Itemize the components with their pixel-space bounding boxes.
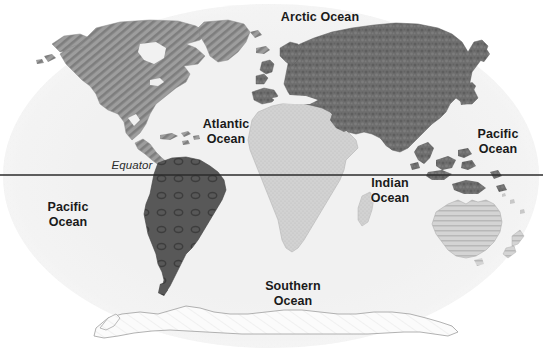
label-equator: Equator — [97, 158, 167, 173]
label-arctic-ocean: Arctic Ocean — [268, 10, 372, 25]
label-indian-ocean: Indian Ocean — [358, 176, 422, 205]
label-pacific-ocean-west: Pacific Ocean — [36, 200, 100, 229]
label-atlantic-ocean: Atlantic Ocean — [190, 117, 262, 146]
label-southern-ocean: Southern Ocean — [252, 279, 334, 308]
label-pacific-ocean-east: Pacific Ocean — [466, 127, 530, 156]
world-map-figure: Arctic Ocean Atlantic Ocean Pacific Ocea… — [0, 0, 543, 353]
